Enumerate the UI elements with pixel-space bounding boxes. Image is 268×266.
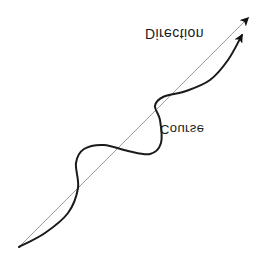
course-label: Course — [160, 122, 204, 137]
course-direction-diagram — [0, 0, 268, 266]
diagram-canvas-container: Direction Course — [0, 0, 268, 266]
direction-label: Direction — [145, 26, 204, 42]
